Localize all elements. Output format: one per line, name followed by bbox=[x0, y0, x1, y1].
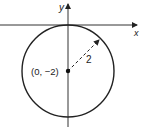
center-label: (0, −2) bbox=[31, 66, 59, 77]
radius-label: 2 bbox=[86, 54, 92, 65]
radius-line bbox=[68, 40, 99, 71]
center-point bbox=[66, 69, 70, 73]
y-axis-label: y bbox=[58, 2, 65, 13]
x-axis-label: x bbox=[133, 28, 139, 38]
circle-diagram: y x 2 (0, −2) bbox=[0, 0, 142, 130]
